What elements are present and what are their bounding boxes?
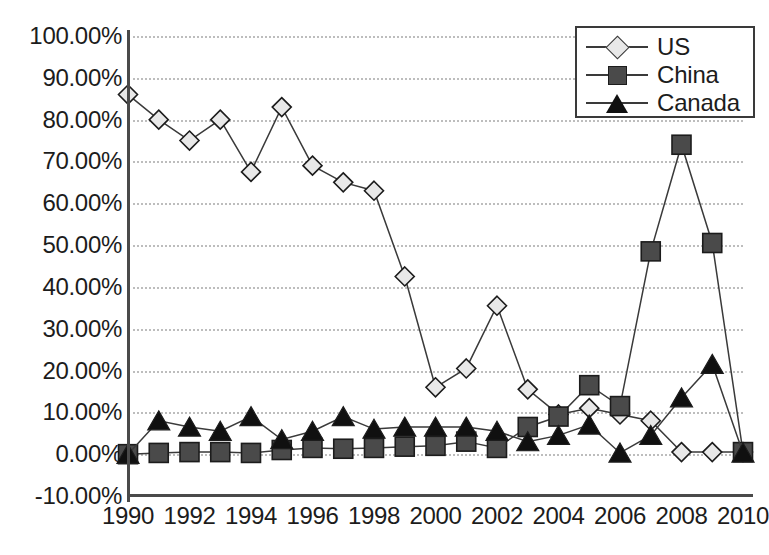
y-axis-tick-label: 80.00% [2, 106, 122, 134]
data-point-marker [334, 173, 353, 192]
data-point-marker [488, 438, 507, 457]
data-point-marker [334, 439, 353, 458]
legend-label-canada: Canada [657, 90, 740, 116]
data-point-marker [365, 181, 384, 200]
data-point-marker [578, 415, 600, 434]
data-point-marker [211, 110, 230, 129]
data-point-marker [701, 354, 723, 373]
data-point-marker [180, 443, 199, 462]
series-line [128, 95, 743, 453]
x-axis-tick-label: 2006 [594, 502, 646, 530]
data-point-marker [548, 425, 570, 444]
data-point-marker [303, 156, 322, 175]
data-point-marker [303, 438, 322, 457]
data-point-marker [242, 162, 261, 181]
data-point-marker [426, 436, 445, 455]
data-point-marker [395, 437, 414, 456]
data-point-marker [365, 438, 384, 457]
y-axis-tick-label: 100.00% [2, 22, 122, 50]
data-point-marker [242, 443, 261, 462]
data-point-marker [272, 98, 291, 117]
data-point-marker [302, 421, 324, 440]
legend-label-china: China [657, 62, 719, 88]
legend-key-canada [586, 90, 648, 116]
x-axis-tick-label: 2002 [471, 502, 523, 530]
data-point-marker [703, 443, 722, 462]
legend-item-us[interactable]: US [577, 33, 753, 61]
y-axis-tick-label: 90.00% [2, 64, 122, 92]
y-axis-tick-label: 30.00% [2, 315, 122, 343]
data-point-marker [672, 135, 691, 154]
x-axis-tick-label: 1994 [225, 502, 277, 530]
data-point-marker [580, 376, 599, 395]
data-point-marker [148, 411, 170, 430]
data-point-marker [211, 443, 230, 462]
legend-label-us: US [657, 34, 690, 60]
series-line [128, 145, 743, 454]
data-point-marker [149, 443, 168, 462]
y-axis-labels: 100.00%90.00%80.00%70.00%60.00%50.00%40.… [0, 36, 122, 496]
series-china [119, 135, 753, 463]
data-point-marker [518, 380, 537, 399]
x-axis-tick-label: 1996 [286, 502, 338, 530]
x-axis-tick-label: 1992 [163, 502, 215, 530]
x-axis-tick-label: 1990 [102, 502, 154, 530]
data-point-marker [332, 407, 354, 426]
legend-item-china[interactable]: China [577, 61, 753, 89]
x-axis-tick-label: 2004 [532, 502, 584, 530]
legend-item-canada[interactable]: Canada [577, 89, 753, 117]
y-axis-tick-label: 40.00% [2, 273, 122, 301]
x-axis-tick-label: 2000 [409, 502, 461, 530]
legend-key-china [586, 62, 648, 88]
y-axis-tick-label: 0.00% [2, 440, 122, 468]
legend-key-us [586, 34, 648, 60]
data-point-marker [641, 242, 660, 261]
data-point-marker [488, 296, 507, 315]
diamond-marker-icon [605, 35, 629, 59]
data-point-marker [703, 234, 722, 253]
y-axis-tick-label: 20.00% [2, 357, 122, 385]
series-us [119, 85, 753, 462]
x-axis-tick-label: 1998 [348, 502, 400, 530]
y-axis-tick-label: 10.00% [2, 398, 122, 426]
triangle-marker-icon [606, 94, 628, 113]
legend: US China Canada [575, 26, 755, 118]
y-axis-tick-label: 60.00% [2, 189, 122, 217]
y-axis-line [127, 30, 130, 502]
data-point-marker [179, 417, 201, 436]
y-axis-tick-label: 50.00% [2, 231, 122, 259]
data-point-marker [149, 110, 168, 129]
data-point-marker [240, 407, 262, 426]
data-point-marker [395, 267, 414, 286]
data-point-marker [611, 397, 630, 416]
data-point-marker [671, 388, 693, 407]
data-point-marker [549, 407, 568, 426]
x-axis-tick-label: 2008 [655, 502, 707, 530]
data-point-marker [271, 430, 293, 449]
data-point-marker [457, 359, 476, 378]
x-axis-line [127, 494, 753, 497]
data-point-marker [180, 131, 199, 150]
x-axis-tick-label: 2010 [717, 502, 769, 530]
data-point-marker [426, 378, 445, 397]
y-axis-tick-label: 70.00% [2, 147, 122, 175]
square-marker-icon [608, 66, 627, 85]
